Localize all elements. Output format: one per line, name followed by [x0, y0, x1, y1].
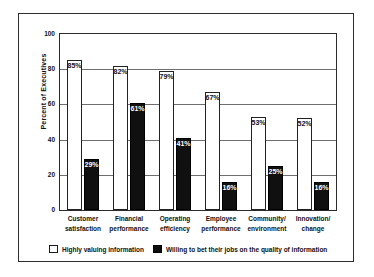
y-axis-tick-label: 20	[48, 170, 55, 177]
bar-value-label: 53%	[251, 119, 265, 127]
bar: 85%	[67, 60, 82, 210]
y-axis-tick-labels: 020406080100	[33, 33, 57, 211]
bar: 82%	[113, 66, 128, 210]
x-axis-category-label-line: Innovation/	[284, 214, 342, 224]
bar: 25%	[268, 166, 283, 210]
legend-label: Willing to bet their jobs on the quality…	[166, 246, 327, 253]
bar-value-label: 82%	[113, 68, 127, 76]
bar-value-label: 29%	[84, 161, 98, 169]
y-axis-tick-label: 100	[44, 30, 55, 37]
bar-group: 67%16%	[205, 34, 237, 210]
bar-value-label: 67%	[205, 94, 219, 102]
bar: 61%	[130, 103, 145, 210]
y-axis-tick-label: 40	[48, 135, 55, 142]
bar-value-label: 16%	[314, 184, 328, 192]
bar-value-label: 85%	[67, 62, 81, 70]
bar: 67%	[205, 92, 220, 210]
x-axis-category-labels: CustomersatisfactionFinancialperformance…	[60, 214, 336, 240]
bar-value-label: 25%	[268, 168, 282, 176]
y-axis-tick-label: 60	[48, 100, 55, 107]
bar-value-label: 41%	[176, 140, 190, 148]
bar-value-label: 61%	[130, 105, 144, 113]
bar-group: 79%41%	[159, 34, 191, 210]
legend-label: Highly valuing information	[62, 246, 144, 253]
x-axis-category-label: Innovation/change	[284, 214, 342, 233]
bar: 41%	[176, 138, 191, 210]
bar: 53%	[251, 117, 266, 210]
legend: Highly valuing informationWilling to bet…	[49, 245, 327, 253]
x-axis-category-label-line: change	[284, 224, 342, 234]
bar-group: 53%25%	[251, 34, 283, 210]
bar-value-label: 79%	[159, 73, 173, 81]
bar: 29%	[84, 159, 99, 210]
y-axis-tick-label: 80	[48, 65, 55, 72]
bar-group: 85%29%	[67, 34, 99, 210]
bar-group: 82%61%	[113, 34, 145, 210]
bar: 16%	[222, 182, 237, 210]
bar-value-label: 16%	[222, 184, 236, 192]
legend-swatch	[153, 245, 162, 253]
y-axis-tick-label: 0	[51, 206, 55, 213]
chart-frame: Percent of Executives 020406080100 85%29…	[18, 13, 354, 262]
bar: 79%	[159, 71, 174, 210]
bar: 52%	[297, 118, 312, 210]
bars-layer: 85%29%82%61%79%41%67%16%53%25%52%16%	[60, 34, 336, 210]
legend-swatch	[49, 245, 58, 253]
bar-value-label: 52%	[297, 120, 311, 128]
bar: 16%	[314, 182, 329, 210]
legend-entry: Highly valuing information	[49, 245, 144, 253]
legend-entry: Willing to bet their jobs on the quality…	[153, 245, 327, 253]
bar-group: 52%16%	[297, 34, 329, 210]
